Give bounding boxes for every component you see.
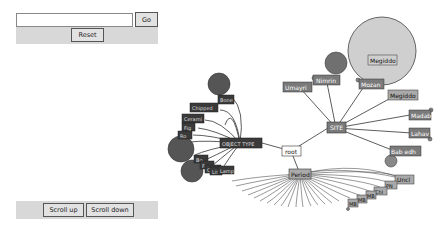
svg-text:Nimrin: Nimrin: [316, 77, 336, 84]
site-node-umayri[interactable]: Umayri: [283, 82, 312, 92]
svg-text:MB: MB: [349, 201, 357, 207]
svg-text:Mozan: Mozan: [361, 81, 381, 88]
object-circle-2[interactable]: [181, 160, 203, 182]
svg-text:Megiddo: Megiddo: [370, 57, 396, 65]
svg-text:Uncl: Uncl: [397, 176, 410, 183]
svg-text:SITE: SITE: [330, 124, 343, 131]
period-dot: [347, 208, 350, 211]
object-circle-1[interactable]: [168, 136, 194, 162]
site-node-megiddo-center[interactable]: Megiddo: [368, 55, 397, 65]
root-node[interactable]: root: [282, 146, 301, 156]
svg-text:Umayri: Umayri: [285, 84, 307, 92]
nimrin-circle[interactable]: [325, 52, 347, 74]
site-node-mozan[interactable]: Mozan: [359, 79, 384, 89]
period-node-mb-3[interactable]: MB: [348, 199, 358, 207]
svg-text:Cerami: Cerami: [184, 116, 202, 122]
svg-text:root: root: [285, 148, 298, 155]
site-node-madab[interactable]: Madab: [409, 110, 431, 120]
site-node-lahav[interactable]: Lahav: [409, 128, 430, 138]
object-node-chipped[interactable]: Chipped: [190, 103, 218, 112]
bone-circle[interactable]: [208, 73, 230, 95]
svg-text:Ro: Ro: [180, 133, 186, 139]
svg-text:OBJECT TYPE: OBJECT TYPE: [222, 141, 254, 147]
site-node[interactable]: SITE: [327, 122, 346, 133]
svg-text:Bone: Bone: [220, 97, 233, 103]
svg-text:Period: Period: [291, 171, 310, 178]
tree-graph[interactable]: root SITE OBJECT TYPE Period Umayri Nimr…: [0, 0, 445, 229]
site-node-megiddo[interactable]: Megiddo: [388, 90, 418, 100]
svg-text:MB: MB: [367, 193, 375, 199]
svg-text:Megiddo: Megiddo: [390, 92, 416, 100]
svg-text:Lamp: Lamp: [220, 168, 234, 175]
period-node-mb-2[interactable]: MB: [357, 195, 367, 203]
megiddo-big-circle[interactable]: [348, 17, 416, 85]
object-node-lamp[interactable]: Lamp: [218, 166, 234, 175]
svg-text:Madab: Madab: [411, 112, 431, 119]
svg-text:Bab edh: Bab edh: [391, 148, 416, 155]
svg-text:Lahav: Lahav: [411, 130, 429, 137]
babedh-circle[interactable]: [385, 155, 397, 167]
site-node-babedh[interactable]: Bab edh: [390, 146, 421, 156]
period-node[interactable]: Period: [289, 169, 311, 179]
period-node-mb-1[interactable]: MB: [366, 191, 376, 199]
object-node-ro[interactable]: Ro: [178, 131, 192, 139]
object-node-bone[interactable]: Bone: [218, 95, 234, 104]
period-node-uncl[interactable]: Uncl: [395, 175, 414, 184]
object-node-cerami[interactable]: Cerami: [182, 114, 204, 123]
svg-text:Lit: Lit: [212, 169, 218, 175]
svg-text:Chipped: Chipped: [192, 105, 213, 112]
object-type-node[interactable]: OBJECT TYPE: [220, 138, 262, 148]
object-node-fig[interactable]: Fig: [182, 123, 195, 132]
site-node-nimrin[interactable]: Nimrin: [313, 75, 340, 85]
svg-text:MB: MB: [358, 197, 366, 203]
